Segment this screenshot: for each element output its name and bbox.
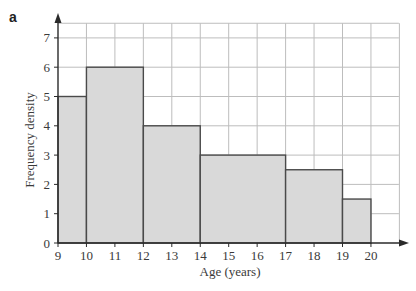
x-tick-label: 16 — [251, 248, 265, 263]
x-tick-label: 18 — [308, 248, 321, 263]
x-tick-label: 13 — [165, 248, 178, 263]
x-tick-label: 10 — [80, 248, 93, 263]
histogram-bar — [86, 67, 143, 243]
y-tick-label: 5 — [44, 89, 51, 104]
y-tick-label: 0 — [44, 236, 51, 251]
x-tick-label: 17 — [279, 248, 293, 263]
y-axis-title: Frequency density — [22, 92, 37, 188]
histogram-bar — [343, 199, 371, 243]
histogram-bar — [200, 155, 285, 243]
x-tick-label: 12 — [137, 248, 150, 263]
histogram-bar — [143, 126, 200, 243]
y-tick-label: 3 — [44, 148, 51, 163]
y-tick-label: 2 — [44, 177, 51, 192]
histogram-bar — [58, 97, 86, 244]
x-tick-labels: 91011121314151617181920 — [55, 248, 378, 263]
x-axis-title: Age (years) — [200, 264, 261, 279]
y-tick-label: 6 — [44, 60, 51, 75]
x-tick-label: 19 — [336, 248, 349, 263]
histogram-chart: 91011121314151617181920 01234567 Age (ye… — [0, 0, 416, 291]
y-tick-label: 1 — [44, 206, 51, 221]
y-tick-label: 7 — [44, 30, 51, 45]
x-tick-label: 11 — [109, 248, 122, 263]
y-tick-labels: 01234567 — [44, 30, 51, 250]
x-axis-arrow-icon — [399, 240, 409, 247]
x-tick-label: 14 — [194, 248, 208, 263]
histogram-bar — [286, 170, 343, 243]
x-tick-label: 20 — [364, 248, 377, 263]
y-tick-label: 4 — [44, 118, 51, 133]
x-tick-label: 9 — [55, 248, 62, 263]
y-axis-arrow-icon — [55, 13, 62, 23]
x-tick-label: 15 — [222, 248, 235, 263]
